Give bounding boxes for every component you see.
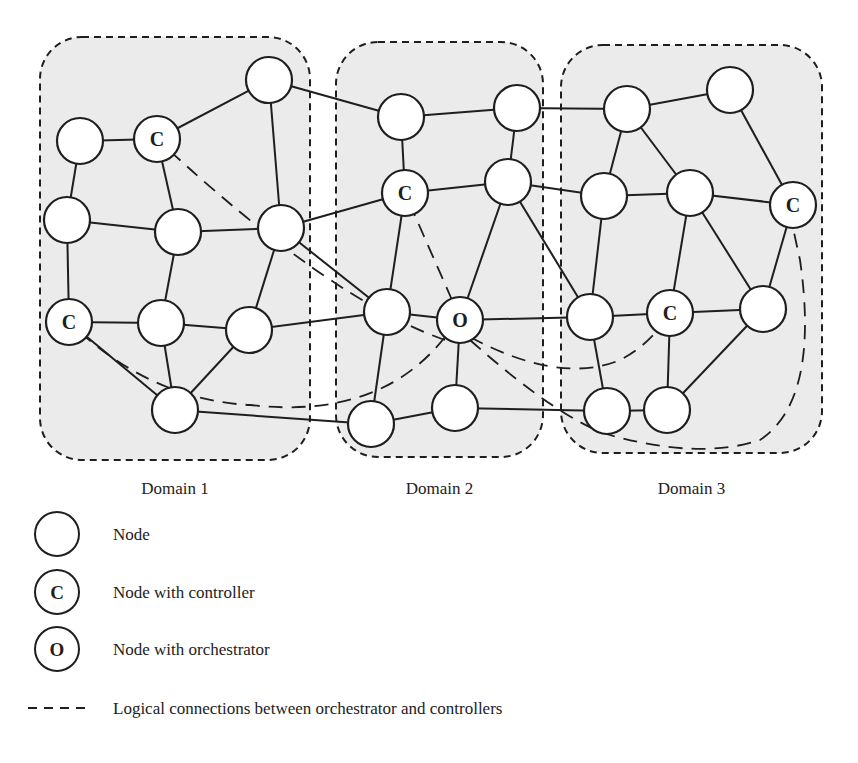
node [567,294,613,340]
node [740,286,786,332]
node-circle-icon [667,170,713,216]
network-domain-diagram: CCCOCC Domain 1Domain 2Domain 3 NodeCNod… [0,0,858,763]
node-letter: C [663,302,677,324]
node-circle-icon [567,294,613,340]
controller-node: C [134,116,180,162]
domain-label-3: Domain 3 [658,479,726,498]
node-circle-icon [740,286,786,332]
legend-letter: C [50,582,64,603]
legend-item-controller: CNode with controller [35,570,255,614]
node [258,205,304,251]
controller-node: C [382,170,428,216]
node [44,197,90,243]
orchestrator-node: O [437,297,483,343]
legend-item-orchestrator: ONode with orchestrator [35,627,270,671]
domain-label-1: Domain 1 [141,479,209,498]
legend-item-node: Node [35,512,150,556]
node-circle-icon [432,385,478,431]
node [707,67,753,113]
legend: NodeCNode with controllerONode with orch… [28,512,502,718]
controller-node: C [46,299,92,345]
node [138,300,184,346]
legend-letter: O [50,639,65,660]
node-circle-icon [44,197,90,243]
node-circle-icon [246,57,292,103]
node [246,57,292,103]
node [494,85,540,131]
legend-label: Node with orchestrator [113,640,270,659]
controller-node: C [647,290,693,336]
node-circle-icon [57,118,103,164]
node-circle-icon [494,85,540,131]
domain-labels: Domain 1Domain 2Domain 3 [141,479,725,498]
node-circle-icon [364,289,410,335]
node-circle-icon [152,387,198,433]
node-circle-icon [707,67,753,113]
node-circle-icon [155,209,201,255]
node [432,385,478,431]
node [584,388,630,434]
node [155,209,201,255]
node [348,401,394,447]
node [581,173,627,219]
node-circle-icon [258,205,304,251]
node-circle-icon [378,94,424,140]
legend-label: Node with controller [113,583,255,602]
node [364,289,410,335]
node [604,86,650,132]
node [57,118,103,164]
node [152,387,198,433]
node-circle-icon [138,300,184,346]
node-circle-icon [604,86,650,132]
domain-label-2: Domain 2 [406,479,474,498]
node [378,94,424,140]
node-letter: C [62,311,76,333]
node [485,159,531,205]
node-circle-icon [485,159,531,205]
node-circle-icon [35,512,79,556]
node-letter: C [786,194,800,216]
node-circle-icon [226,307,272,353]
legend-item-dashed-line: Logical connections between orchestrator… [28,699,502,718]
node-letter: O [452,309,468,331]
node-circle-icon [584,388,630,434]
node [226,307,272,353]
node-letter: C [398,182,412,204]
node-letter: C [150,128,164,150]
legend-label: Logical connections between orchestrator… [113,699,502,718]
node [644,387,690,433]
legend-label: Node [113,525,150,544]
node-circle-icon [348,401,394,447]
node-circle-icon [644,387,690,433]
controller-node: C [770,182,816,228]
node [667,170,713,216]
node-circle-icon [581,173,627,219]
